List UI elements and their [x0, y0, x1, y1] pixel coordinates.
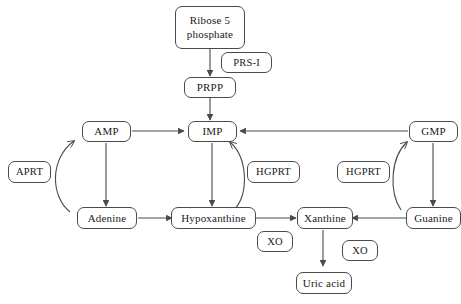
node-ribose-5-phosphate-line1: Ribose 5 — [190, 14, 230, 28]
node-uric-acid[interactable]: Uric acid — [296, 272, 352, 294]
node-amp-label: AMP — [94, 125, 118, 137]
node-guanine[interactable]: Guanine — [406, 207, 461, 229]
node-adenine-label: Adenine — [88, 212, 127, 224]
node-aprt[interactable]: APRT — [8, 161, 51, 183]
edge-hypoxanthine-to-imp-salvage — [230, 142, 244, 210]
node-prpp-label: PRPP — [197, 81, 224, 93]
node-prs-i-label: PRS-I — [233, 57, 260, 69]
node-hgprt-right[interactable]: HGPRT — [337, 161, 390, 183]
node-hypoxanthine[interactable]: Hypoxanthine — [171, 207, 256, 229]
edge-guanine-to-gmp-salvage — [393, 142, 407, 210]
node-adenine[interactable]: Adenine — [77, 207, 137, 229]
node-hgprt-center-label: HGPRT — [256, 166, 291, 178]
node-xo-right[interactable]: XO — [342, 240, 378, 261]
node-prs-i[interactable]: PRS-I — [221, 52, 272, 73]
node-uric-acid-label: Uric acid — [303, 277, 345, 289]
node-xanthine-label: Xanthine — [304, 212, 346, 224]
purine-pathway-diagram: Ribose 5 phosphate PRS-I PRPP AMP IMP GM… — [0, 0, 461, 304]
node-gmp[interactable]: GMP — [409, 121, 458, 142]
node-xo-right-label: XO — [352, 245, 368, 257]
node-ribose-5-phosphate-line2: phosphate — [187, 28, 233, 42]
node-xanthine[interactable]: Xanthine — [297, 207, 353, 229]
node-xo-left[interactable]: XO — [257, 231, 293, 252]
node-hgprt-right-label: HGPRT — [346, 166, 381, 178]
node-prpp[interactable]: PRPP — [184, 77, 236, 98]
node-imp-label: IMP — [202, 125, 222, 137]
node-xo-left-label: XO — [267, 236, 283, 248]
node-amp[interactable]: AMP — [82, 121, 131, 142]
node-gmp-label: GMP — [421, 125, 445, 137]
node-hypoxanthine-label: Hypoxanthine — [181, 212, 246, 224]
node-aprt-label: APRT — [16, 166, 43, 178]
node-guanine-label: Guanine — [414, 212, 453, 224]
edge-adenine-to-amp-salvage — [55, 141, 74, 212]
node-imp[interactable]: IMP — [188, 121, 237, 142]
node-ribose-5-phosphate[interactable]: Ribose 5 phosphate — [175, 6, 245, 49]
node-hgprt-center[interactable]: HGPRT — [247, 161, 300, 183]
